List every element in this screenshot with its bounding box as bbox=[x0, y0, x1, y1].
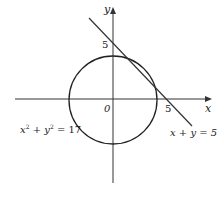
y-axis-arrow-icon bbox=[110, 7, 116, 14]
y-axis-label: y bbox=[103, 3, 111, 16]
line-equation-label: x + y = 5 bbox=[170, 127, 217, 138]
origin-label: 0 bbox=[104, 103, 111, 114]
x-axis-label: x bbox=[205, 102, 212, 115]
y-tick-5-label: 5 bbox=[102, 39, 108, 50]
circle-equation-label: x2 + y2 = 17 bbox=[20, 123, 81, 135]
coordinate-diagram: y x 0 5 5 x2 + y2 = 17 x + y = 5 bbox=[0, 0, 222, 198]
x-tick-5-label: 5 bbox=[165, 103, 171, 114]
